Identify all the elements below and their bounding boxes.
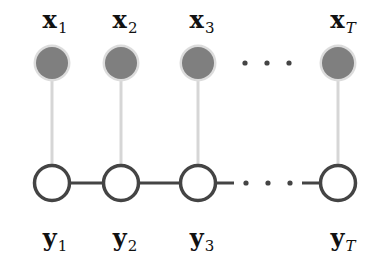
label-y1: y1: [43, 226, 68, 254]
ellipsis-top: [242, 60, 291, 65]
node-y1: [35, 166, 70, 201]
chain-diagram: [0, 0, 382, 259]
label-y2: y2: [113, 226, 138, 254]
ellipsis-bottom: [243, 180, 292, 185]
label-x3: x3: [190, 8, 215, 36]
label-xT: xT: [330, 8, 355, 36]
node-y3: [181, 166, 216, 201]
node-x2: [105, 47, 137, 79]
node-yT: [321, 166, 356, 201]
node-xT: [322, 47, 354, 79]
node-y2: [104, 166, 139, 201]
node-x3: [182, 47, 214, 79]
label-yT: yT: [331, 226, 356, 254]
vertical-edges: [52, 80, 338, 166]
label-y3: y3: [190, 226, 215, 254]
label-x1: x1: [43, 8, 68, 36]
observed-nodes: [34, 45, 357, 82]
label-x2: x2: [113, 8, 138, 36]
node-x1: [36, 47, 68, 79]
